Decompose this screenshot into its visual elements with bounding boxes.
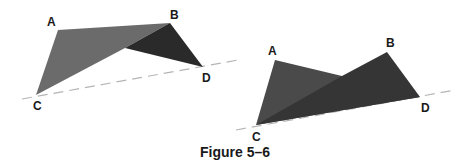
right-label-c: C [252,130,261,144]
left-label-b: B [170,8,179,22]
right-label-a: A [268,44,277,58]
left-label-c: C [33,99,42,113]
figure-caption: Figure 5–6 [200,144,270,160]
right-label-b: B [386,36,395,50]
right-label-d: D [421,101,430,115]
figure-diagram: A B C D A B C D Figure 5–6 [0,0,469,163]
left-label-d: D [202,71,211,85]
left-label-a: A [47,15,56,29]
